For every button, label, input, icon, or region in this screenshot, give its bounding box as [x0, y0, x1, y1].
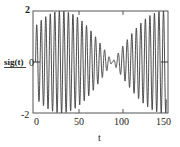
x-tick-0: 0 — [34, 117, 39, 127]
x-tick-150: 150 — [156, 117, 171, 127]
y-axis-label: sig(t) — [4, 57, 24, 67]
chart-plot — [0, 0, 180, 147]
x-axis-label: t — [98, 133, 101, 143]
y-tick-bot: -2 — [21, 110, 29, 120]
y-tick-mid: 0 — [29, 58, 34, 68]
y-axis-label-underline — [4, 67, 26, 68]
signal-line — [36, 11, 167, 113]
x-tick-100: 100 — [114, 117, 129, 127]
x-tick-50: 50 — [74, 117, 84, 127]
y-tick-top: 2 — [25, 5, 30, 15]
